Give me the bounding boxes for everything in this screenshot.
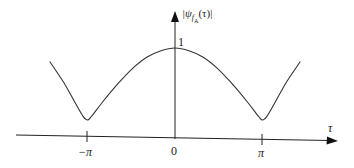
- x-axis-label: τ: [328, 122, 332, 134]
- x-tick-label-0: 0: [171, 145, 177, 157]
- chart-plot: [0, 0, 354, 168]
- x-tick-label-pi: π: [258, 147, 264, 159]
- y-tick-label-1: 1: [178, 36, 184, 48]
- y-axis-label: |ψfA(τ)|: [182, 8, 212, 19]
- x-tick-label-neg-pi: −π: [78, 146, 92, 158]
- x-axis-line: [16, 135, 330, 141]
- x-axis-arrow-icon: [327, 137, 339, 145]
- y-axis-arrow-icon: [171, 11, 179, 22]
